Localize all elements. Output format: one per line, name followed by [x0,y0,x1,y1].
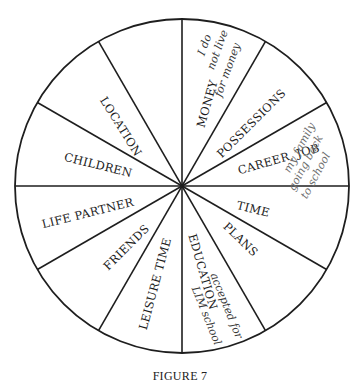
life-wheel-diagram: LOCATIONCHILDRENLIFE PARTNERFRIENDSLEISU… [0,0,360,390]
segment-label-time: TIME [235,198,271,220]
segment-label-leisure-time: LEISURE TIME [136,236,174,331]
segment-label-possessions: POSSESSIONS [214,86,289,161]
segment-label-plans: PLANS [220,219,261,259]
segment-label-location: LOCATION [97,94,145,159]
figure-caption: FIGURE 7 [0,369,360,384]
segment-labels: LOCATIONCHILDRENLIFE PARTNERFRIENDSLEISU… [40,78,321,331]
segment-label-life-partner: LIFE PARTNER [40,195,135,231]
segment-label-children: CHILDREN [63,150,134,180]
